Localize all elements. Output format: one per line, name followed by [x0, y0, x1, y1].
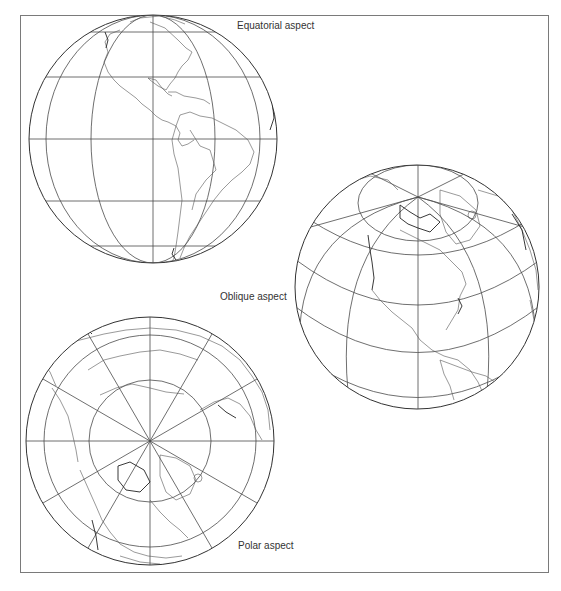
equatorial-aspect-label: Equatorial aspect: [237, 20, 314, 31]
polar-aspect-label: Polar aspect: [238, 540, 294, 551]
equatorial-globe: [20, 15, 290, 263]
polar-globe: [26, 317, 274, 565]
oblique-aspect-label: Oblique aspect: [220, 291, 287, 302]
oblique-globe: [293, 165, 541, 409]
